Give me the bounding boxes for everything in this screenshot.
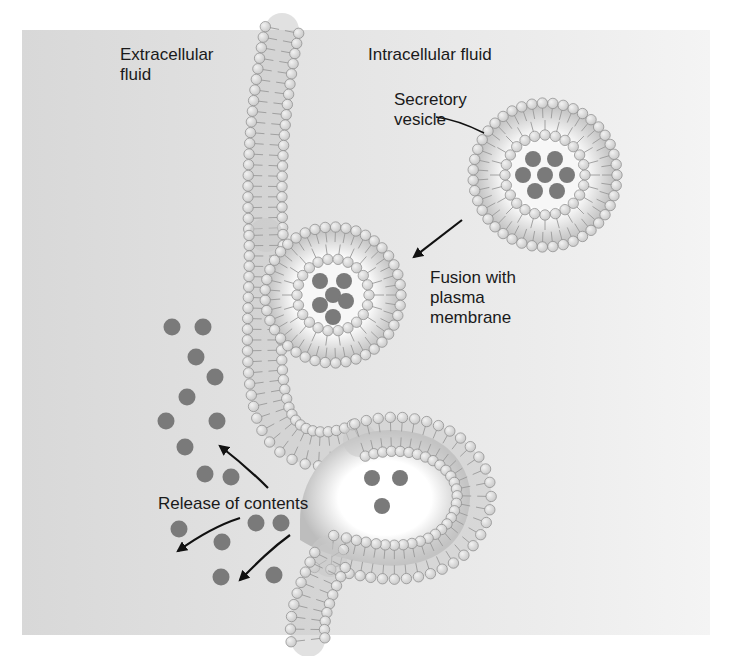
label-intracellular-fluid: Intracellular fluid [368, 45, 492, 65]
lipid-head [250, 85, 260, 95]
secretory-content-particle [527, 183, 543, 199]
lipid-head [540, 130, 550, 140]
released-particle [273, 515, 290, 532]
lipid-head [609, 149, 619, 159]
lipid-head [265, 315, 275, 325]
lipid-head [245, 127, 255, 137]
lipid-head [474, 452, 484, 462]
lipid-head [507, 234, 517, 244]
secretory-content-particle [537, 167, 553, 183]
lipid-head [262, 274, 272, 284]
lipid-head [473, 196, 483, 206]
lipid-head [277, 202, 287, 212]
released-particle [177, 439, 194, 456]
lipid-head [477, 205, 487, 215]
label-release-of-contents: Release of contents [158, 494, 308, 514]
lipid-head [529, 131, 539, 141]
lipid-head [422, 416, 432, 426]
lipid-head [320, 633, 330, 643]
lipid-head [343, 323, 353, 333]
lipid-head [300, 567, 310, 577]
lipid-head [578, 159, 588, 169]
lipid-head [310, 355, 320, 365]
lipid-head [275, 447, 285, 457]
lipid-head [465, 441, 475, 451]
lipid-head [470, 154, 480, 164]
lipid-head [251, 74, 261, 84]
secretory-content-particle [312, 297, 328, 313]
lipid-head [577, 231, 587, 241]
lipid-head [360, 350, 370, 360]
lipid-head [296, 577, 306, 587]
released-particle [248, 515, 265, 532]
lipid-head [277, 192, 287, 202]
lipid-head [323, 325, 333, 335]
lipid-head [243, 357, 253, 367]
lipid-head [243, 368, 253, 378]
label-extracellular-fluid: Extracellular fluid [120, 45, 214, 85]
lipid-head [485, 477, 495, 487]
lipid-head [292, 290, 302, 300]
lipid-head [550, 208, 560, 218]
lipid-head [473, 144, 483, 154]
lipid-head [550, 131, 560, 141]
lipid-head [260, 21, 270, 31]
lipid-head [433, 420, 443, 430]
lipid-head [286, 637, 296, 647]
lipid-head [568, 104, 578, 114]
secretory-content-particle [559, 167, 575, 183]
lipid-head [244, 240, 254, 250]
secretory-content-particle [325, 309, 341, 325]
lipid-head [244, 230, 254, 240]
released-particle [197, 466, 214, 483]
lipid-head [243, 282, 253, 292]
lipid-head [280, 120, 290, 130]
lipid-head [277, 355, 287, 365]
lipid-head [333, 254, 343, 264]
lipid-head [605, 200, 615, 210]
lipid-head [243, 303, 253, 313]
lipid-head [264, 437, 274, 447]
lipid-head [500, 170, 510, 180]
lipid-head [279, 130, 289, 140]
lipid-head [351, 226, 361, 236]
lipid-head [257, 425, 267, 435]
lipid-head [277, 171, 287, 181]
lipid-head [278, 229, 288, 239]
lipid-head [260, 285, 270, 295]
lipid-head [389, 260, 399, 270]
secretory-content-particle [338, 293, 354, 309]
lipid-head [501, 180, 511, 190]
lipid-head [289, 599, 299, 609]
lipid-head [243, 159, 253, 169]
lipid-head [280, 384, 290, 394]
lipid-head [278, 140, 288, 150]
lipid-head [293, 28, 303, 38]
lipid-head [517, 102, 527, 112]
released-particle [164, 319, 181, 336]
lipid-head [351, 535, 361, 545]
secretory-content-particle [547, 151, 563, 167]
lipid-head [242, 324, 252, 334]
lipid-head [480, 464, 490, 474]
lipid-head [385, 412, 395, 422]
lipid-head [285, 624, 295, 634]
lipid-head [393, 269, 403, 279]
lipid-head [305, 557, 315, 567]
lipid-head [320, 222, 330, 232]
lipid-head [448, 558, 458, 568]
lipid-head [298, 309, 308, 319]
lipid-head [605, 139, 615, 149]
lipid-head [612, 170, 622, 180]
lipid-head [290, 48, 300, 58]
secretory-content-particle [336, 273, 352, 289]
secretory-content-particle [312, 273, 328, 289]
lipid-head [527, 99, 537, 109]
lipid-head [355, 570, 365, 580]
lipid-head [501, 159, 511, 169]
lipid-head [540, 210, 550, 220]
lipid-head [244, 251, 254, 261]
lipid-head [286, 611, 296, 621]
lipid-head [243, 202, 253, 212]
lipid-head [243, 192, 253, 202]
